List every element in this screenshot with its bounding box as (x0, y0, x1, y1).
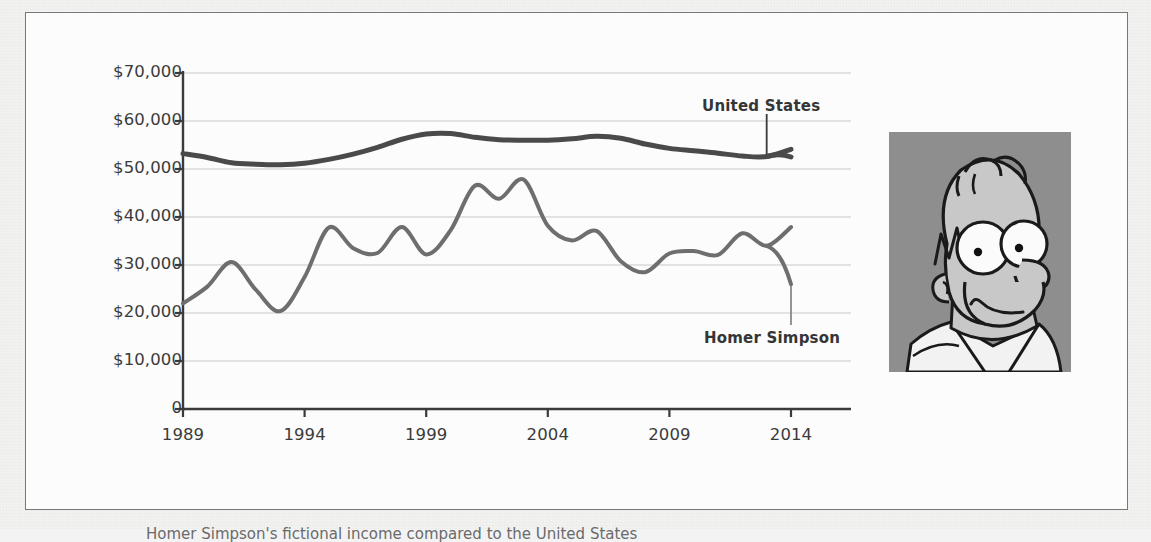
figure-frame: 0$10,000$20,000$30,000$40,000$50,000$60,… (25, 12, 1128, 510)
x-tick-label: 2014 (770, 425, 812, 444)
x-tick-label: 1994 (283, 425, 325, 444)
x-tick-label: 1999 (405, 425, 447, 444)
homer-simpson-drawing (889, 132, 1071, 372)
x-tick-label: 2009 (648, 425, 690, 444)
pupil-right (1015, 244, 1023, 252)
x-tick-label: 1989 (162, 425, 204, 444)
series-label-homer-simpson: Homer Simpson (704, 329, 840, 347)
figure-caption: Homer Simpson's fictional income compare… (146, 525, 637, 542)
x-tick-label: 2004 (527, 425, 569, 444)
homer-simpson-portrait-image (889, 132, 1071, 372)
series-label-united-states: United States (702, 97, 820, 115)
pupil-left (974, 248, 982, 256)
